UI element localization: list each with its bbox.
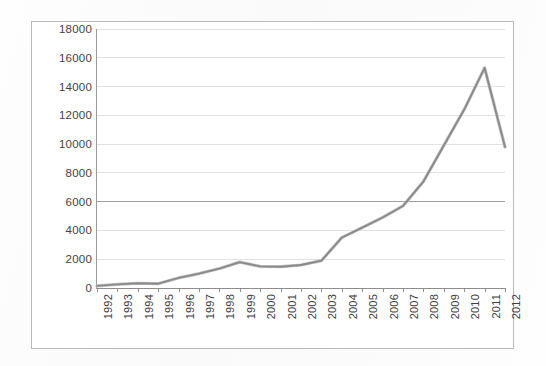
x-tick-label-2001: 2001 [286,294,298,319]
chart-figure: 0200040006000800010000120001400016000180… [0,0,546,366]
x-tick-1998 [219,288,220,292]
series-line-chart [97,29,505,288]
x-tick-1996 [179,288,180,292]
x-tick-label-2005: 2005 [367,294,379,319]
x-tick-1993 [117,288,118,292]
series-line-halo [97,68,505,286]
x-tick-1997 [199,288,200,292]
y-tick-label-18000: 18000 [30,23,92,35]
plot-area [97,29,505,288]
y-tick-label-4000: 4000 [30,224,92,236]
x-tick-2006 [383,288,384,292]
x-axis-ticks [97,288,505,293]
x-tick-label-2010: 2010 [469,294,481,319]
x-tick-label-2008: 2008 [428,294,440,319]
x-tick-label-2012: 2012 [510,294,522,319]
x-tick-label-1995: 1995 [163,294,175,319]
x-tick-2007 [403,288,404,292]
x-tick-1999 [240,288,241,292]
x-tick-label-2006: 2006 [388,294,400,319]
y-tick-label-16000: 16000 [30,52,92,64]
y-tick-label-12000: 12000 [30,109,92,121]
x-tick-label-2011: 2011 [490,294,502,318]
x-tick-label-2009: 2009 [449,294,461,319]
x-tick-label-1999: 1999 [245,294,257,319]
y-tick-label-6000: 6000 [30,196,92,208]
x-tick-label-1997: 1997 [204,294,216,319]
x-tick-2002 [301,288,302,292]
y-tick-label-0: 0 [30,282,92,294]
x-tick-label-1998: 1998 [224,294,236,319]
x-tick-label-2002: 2002 [306,294,318,319]
x-tick-label-2003: 2003 [326,294,338,319]
x-tick-2010 [464,288,465,292]
x-tick-2011 [485,288,486,292]
x-axis-labels: 1992199319941995199619971998199920002001… [97,294,505,340]
x-tick-1994 [138,288,139,292]
x-tick-label-1994: 1994 [143,294,155,319]
x-tick-2001 [281,288,282,292]
series-line [97,68,505,286]
y-tick-label-14000: 14000 [30,81,92,93]
y-tick-label-10000: 10000 [30,138,92,150]
x-tick-label-2004: 2004 [347,294,359,319]
y-axis-labels: 0200040006000800010000120001400016000180… [26,29,92,288]
y-tick-label-2000: 2000 [30,253,92,265]
x-tick-label-2000: 2000 [265,294,277,319]
y-tick-label-8000: 8000 [30,167,92,179]
x-tick-label-2007: 2007 [408,294,420,319]
x-tick-2000 [260,288,261,292]
x-tick-2004 [342,288,343,292]
x-tick-label-1992: 1992 [102,294,114,319]
x-tick-label-1993: 1993 [122,294,134,319]
x-tick-1995 [158,288,159,292]
x-tick-2005 [362,288,363,292]
x-tick-1992 [97,288,98,292]
x-tick-2009 [444,288,445,292]
x-tick-2008 [423,288,424,292]
x-tick-2003 [321,288,322,292]
x-tick-2012 [505,288,506,292]
x-tick-label-1996: 1996 [184,294,196,319]
